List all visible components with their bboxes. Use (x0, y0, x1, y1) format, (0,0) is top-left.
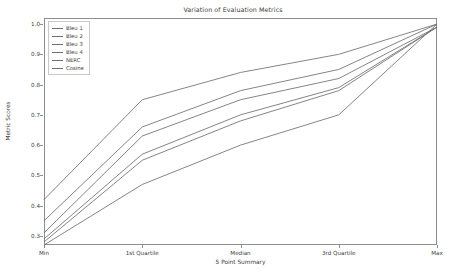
x-tick-label: 1st Quartile (126, 250, 159, 256)
y-tick-mark (40, 115, 43, 116)
series-line (44, 27, 437, 233)
legend-item[interactable]: Bleu 2 (52, 32, 84, 40)
series-line (44, 24, 437, 245)
legend-line-swatch (52, 36, 63, 37)
y-tick-mark (40, 24, 43, 25)
legend-item[interactable]: NERC (52, 56, 84, 64)
y-tick-mark (40, 54, 43, 55)
y-tick-label: 0.8 (4, 82, 40, 88)
x-tick-label: 3rd Quartile (322, 250, 356, 256)
y-tick-mark (40, 145, 43, 146)
x-tick-mark (142, 245, 143, 248)
y-axis-label: Metric Scores (5, 91, 11, 151)
series-line (44, 27, 437, 239)
legend-item-label: Bleu 4 (66, 48, 83, 56)
legend-line-swatch (52, 68, 63, 69)
legend-line-swatch (52, 60, 63, 61)
y-tick-label: 0.4 (4, 203, 40, 209)
legend-item-label: Bleu 3 (66, 40, 83, 48)
legend-item[interactable]: Cosine (52, 64, 84, 72)
legend-item-label: Cosine (66, 64, 84, 72)
x-tick-label: Min (39, 250, 49, 256)
legend-item-label: Bleu 1 (66, 24, 83, 32)
legend: Bleu 1Bleu 2Bleu 3Bleu 4NERCCosine (48, 21, 90, 75)
x-tick-mark (241, 245, 242, 248)
y-tick-label: 0.9 (4, 51, 40, 57)
legend-line-swatch (52, 28, 63, 29)
y-tick-mark (40, 236, 43, 237)
x-tick-label: Max (431, 250, 443, 256)
y-tick-label: 1.0 (4, 21, 40, 27)
legend-item[interactable]: Bleu 3 (52, 40, 84, 48)
y-tick-mark (40, 175, 43, 176)
legend-item[interactable]: Bleu 4 (52, 48, 84, 56)
y-tick-label: 0.5 (4, 172, 40, 178)
x-axis-label: 5 Point Summary (44, 259, 437, 265)
chart-canvas: Variation of Evaluation Metrics 0.30.40.… (0, 0, 466, 274)
series-line (44, 24, 437, 200)
y-tick-mark (40, 85, 43, 86)
y-tick-mark (40, 206, 43, 207)
series-line (44, 27, 437, 242)
x-tick-mark (339, 245, 340, 248)
x-tick-label: Median (230, 250, 250, 256)
y-tick-label: 0.3 (4, 233, 40, 239)
legend-item[interactable]: Bleu 1 (52, 24, 84, 32)
legend-line-swatch (52, 52, 63, 53)
legend-item-label: NERC (66, 56, 80, 64)
legend-item-label: Bleu 2 (66, 32, 83, 40)
x-tick-mark (44, 245, 45, 248)
legend-line-swatch (52, 44, 63, 45)
series-line (44, 24, 437, 221)
x-tick-mark (437, 245, 438, 248)
